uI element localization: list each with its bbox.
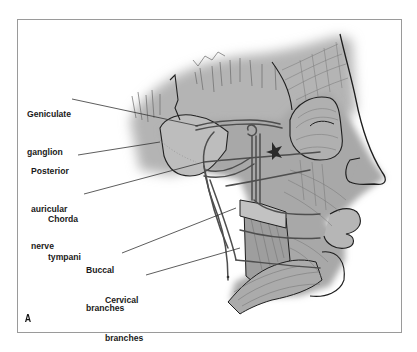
label-line: Chorda: [48, 213, 81, 226]
leader-buccal: [122, 208, 236, 253]
leader-cervical: [146, 248, 240, 275]
label-chorda-tympani: Chorda tympani: [48, 188, 81, 276]
label-line: Posterior: [31, 165, 69, 178]
label-cervical-branches: Cervical branches: [105, 269, 143, 352]
orbicularis-oculi: [290, 97, 342, 160]
panel-label: A: [25, 312, 31, 324]
cervical-terminal: [227, 276, 230, 279]
label-line: tympani: [48, 251, 81, 264]
label-line: Cervical: [105, 294, 143, 307]
label-line: Geniculate: [27, 108, 71, 121]
label-line: branches: [105, 332, 143, 345]
